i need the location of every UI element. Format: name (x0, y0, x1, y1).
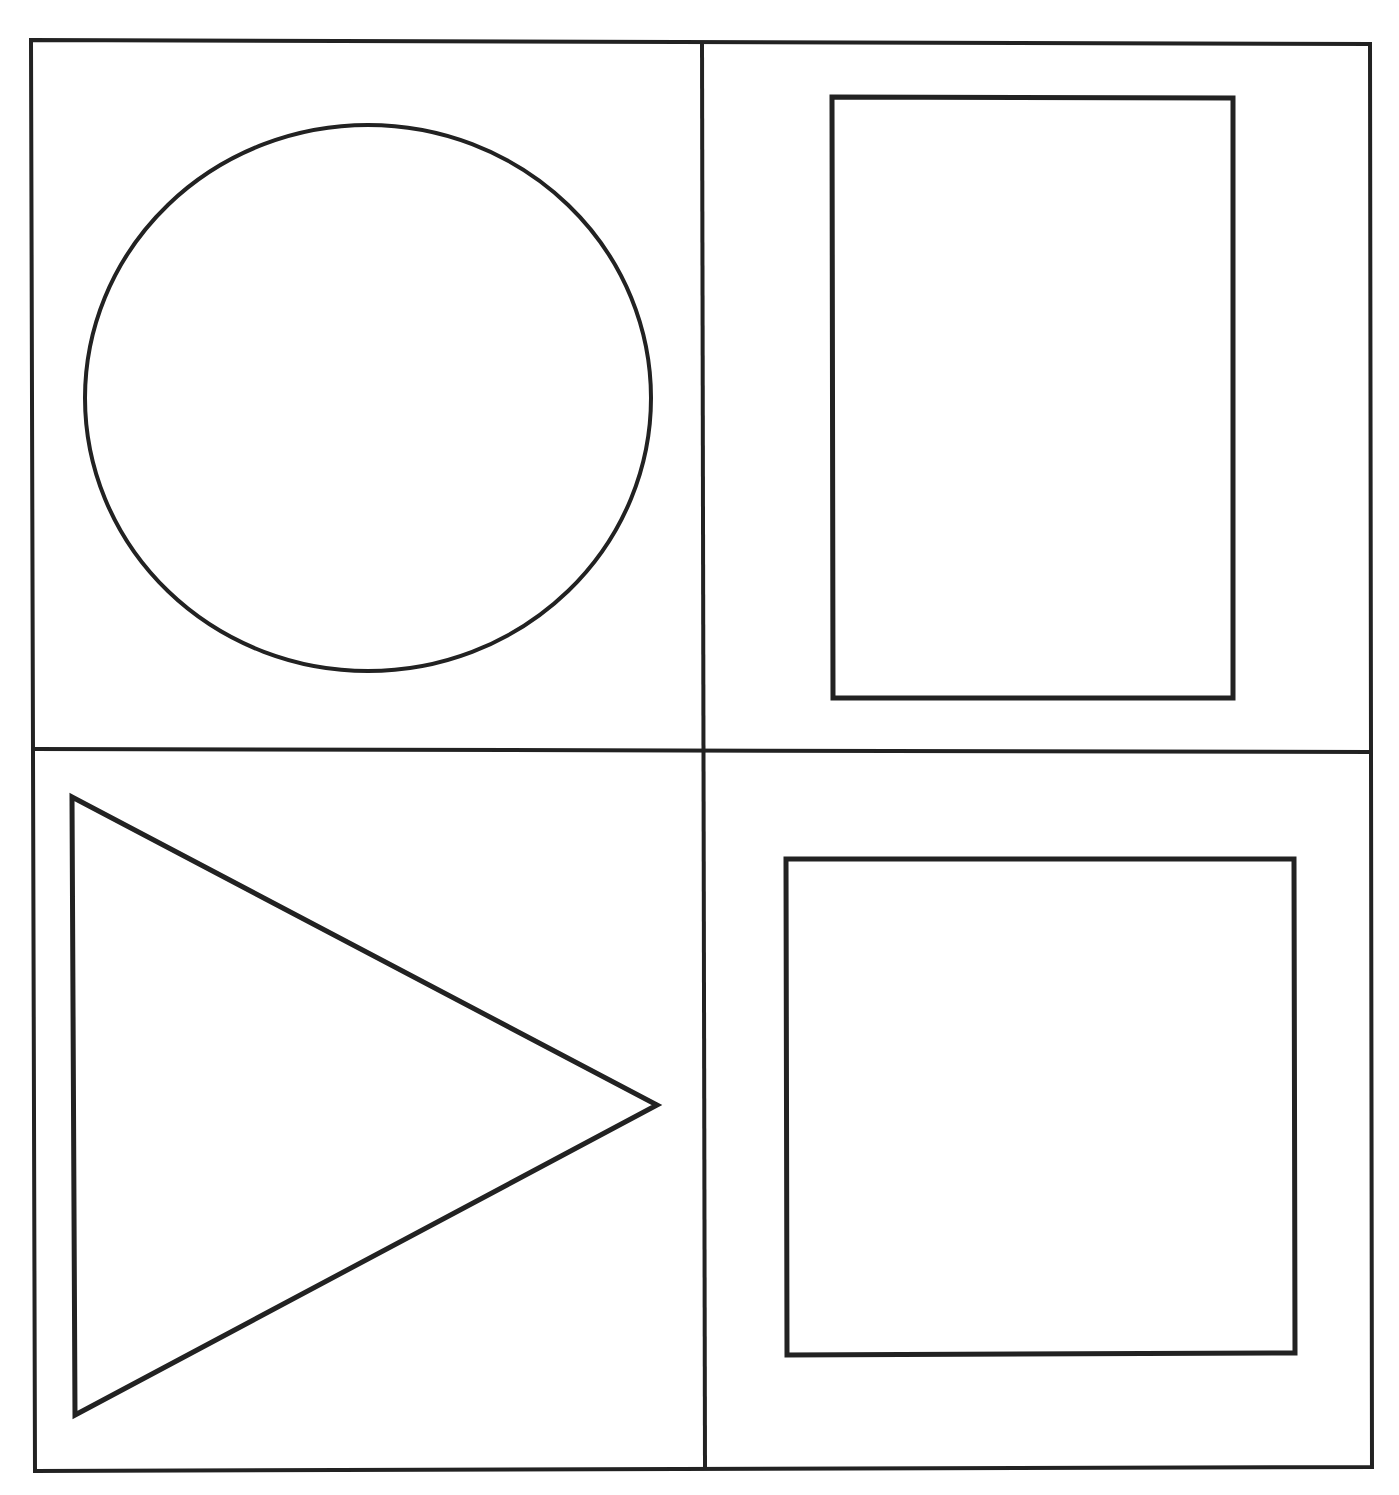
shape-grid-diagram (0, 0, 1399, 1495)
